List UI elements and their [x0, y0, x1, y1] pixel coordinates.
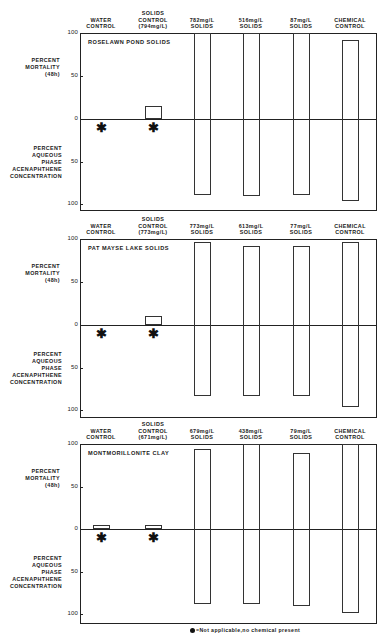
y-label-line: PERCENT [0, 555, 62, 562]
not-applicable-asterisk-icon: ✱ [146, 327, 160, 340]
y-tick-mark [80, 368, 83, 369]
y-label-line: PHASE [0, 365, 62, 372]
zero-baseline [80, 529, 377, 530]
column-label-line: CONTROL [71, 23, 131, 30]
y-label-line: PHASE [0, 569, 62, 576]
plot-frame [80, 239, 377, 418]
y-tick-mark [80, 572, 83, 573]
y-label-line: MORTALITY [0, 64, 60, 71]
y-label-line: ACENAPHTHENE [0, 166, 62, 173]
y-tick-mark [80, 410, 83, 411]
y-tick-label: 0 [58, 115, 78, 121]
y-axis-label-concentration: PERCENTAQUEOUSPHASEACENAPHTHENECONCENTRA… [0, 145, 62, 180]
not-applicable-asterisk-icon: ✱ [94, 121, 108, 134]
y-tick-label: 0 [58, 525, 78, 531]
y-tick-mark [80, 282, 83, 283]
column-label-line: CONTROL [320, 229, 380, 236]
y-label-line: PERCENT [0, 351, 62, 358]
y-tick-label: 100 [58, 235, 78, 241]
plot-frame [80, 444, 377, 624]
y-tick-mark [80, 444, 83, 445]
not-applicable-asterisk-icon: ✱ [146, 531, 160, 544]
y-tick-mark [80, 76, 83, 77]
panel-title: PAT MAYSE LAKE SOLIDS [88, 245, 169, 251]
y-tick-mark [80, 239, 83, 240]
asterisk-marker-icon [190, 628, 195, 633]
bar-3 [194, 449, 211, 604]
y-tick-label: 100 [58, 406, 78, 412]
footnote: =Not applicable,no chemical present [190, 627, 300, 633]
column-label-line: CONTROL [71, 434, 131, 441]
y-tick-label: 50 [58, 72, 78, 78]
bar-4 [243, 246, 260, 397]
footnote-text: =Not applicable,no chemical present [196, 627, 300, 633]
column-label: CHEMICALCONTROL [320, 421, 380, 441]
y-tick-label: 50 [58, 278, 78, 284]
y-label-line: PERCENT [0, 468, 60, 475]
bar-2 [145, 525, 162, 529]
y-tick-label: 100 [58, 29, 78, 35]
y-axis-label-concentration: PERCENTAQUEOUSPHASEACENAPHTHENECONCENTRA… [0, 555, 62, 590]
y-label-line: PHASE [0, 159, 62, 166]
y-tick-label: 100 [58, 440, 78, 446]
column-label: CHEMICALCONTROL [320, 216, 380, 236]
y-label-line: CONCENTRATION [0, 173, 62, 180]
y-tick-label: 100 [58, 610, 78, 616]
y-label-line: MORTALITY [0, 475, 60, 482]
bar-4 [243, 33, 260, 196]
column-label: WATERCONTROL [71, 216, 131, 236]
y-label-line: ACENAPHTHENE [0, 372, 62, 379]
y-label-line: PERCENT [0, 263, 60, 270]
y-label-line: MORTALITY [0, 270, 60, 277]
y-axis-label-concentration: PERCENTAQUEOUSPHASEACENAPHTHENECONCENTRA… [0, 351, 62, 386]
bar-6 [342, 40, 359, 201]
y-label-line: (48h) [0, 71, 60, 78]
y-tick-mark [80, 33, 83, 34]
panel-title: MONTMORILLONITE CLAY [88, 450, 169, 456]
y-tick-mark [80, 204, 83, 205]
y-label-line: CONCENTRATION [0, 379, 62, 386]
column-label-line: CONTROL [71, 229, 131, 236]
bar-2 [145, 106, 162, 119]
zero-baseline [80, 119, 377, 120]
y-tick-mark [80, 162, 83, 163]
bar-2 [145, 316, 162, 325]
y-label-line: AQUEOUS [0, 562, 62, 569]
y-tick-mark [80, 529, 83, 530]
bar-5 [293, 246, 310, 396]
bar-6 [342, 242, 359, 407]
y-tick-mark [80, 487, 83, 488]
y-label-line: ACENAPHTHENE [0, 576, 62, 583]
y-tick-mark [80, 614, 83, 615]
y-label-line: AQUEOUS [0, 358, 62, 365]
column-label: CHEMICALCONTROL [320, 10, 380, 30]
y-axis-label-mortality: PERCENTMORTALITY(48h) [0, 57, 60, 78]
not-applicable-asterisk-icon: ✱ [146, 121, 160, 134]
y-label-line: (48h) [0, 482, 60, 489]
column-label: WATERCONTROL [71, 421, 131, 441]
y-tick-label: 50 [58, 483, 78, 489]
bar-6 [342, 444, 359, 613]
y-tick-label: 0 [58, 321, 78, 327]
y-tick-mark [80, 325, 83, 326]
zero-baseline [80, 325, 377, 326]
y-label-line: PERCENT [0, 57, 60, 64]
not-applicable-asterisk-icon: ✱ [94, 327, 108, 340]
panel-title: ROSELAWN POND SOLIDS [88, 39, 170, 45]
y-label-line: CONCENTRATION [0, 583, 62, 590]
y-tick-mark [80, 119, 83, 120]
bar-4 [243, 444, 260, 604]
y-label-line: (48h) [0, 277, 60, 284]
column-label-line: CONTROL [320, 434, 380, 441]
y-label-line: AQUEOUS [0, 152, 62, 159]
plot-frame [80, 33, 377, 211]
bar-1 [93, 525, 110, 529]
y-axis-label-mortality: PERCENTMORTALITY(48h) [0, 468, 60, 489]
not-applicable-asterisk-icon: ✱ [94, 531, 108, 544]
column-label: WATERCONTROL [71, 10, 131, 30]
bar-3 [194, 242, 211, 395]
y-tick-label: 100 [58, 200, 78, 206]
y-axis-label-mortality: PERCENTMORTALITY(48h) [0, 263, 60, 284]
bar-3 [194, 33, 211, 195]
y-label-line: PERCENT [0, 145, 62, 152]
